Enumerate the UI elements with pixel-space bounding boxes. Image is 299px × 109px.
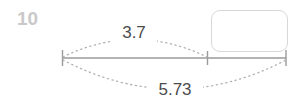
lower-measure-label: 5.73 <box>158 80 191 99</box>
upper-measure-label: 3.7 <box>122 23 146 42</box>
question-card: 10 3.7 5.73 <box>0 0 299 109</box>
number-line-diagram: 3.7 5.73 <box>0 0 299 109</box>
